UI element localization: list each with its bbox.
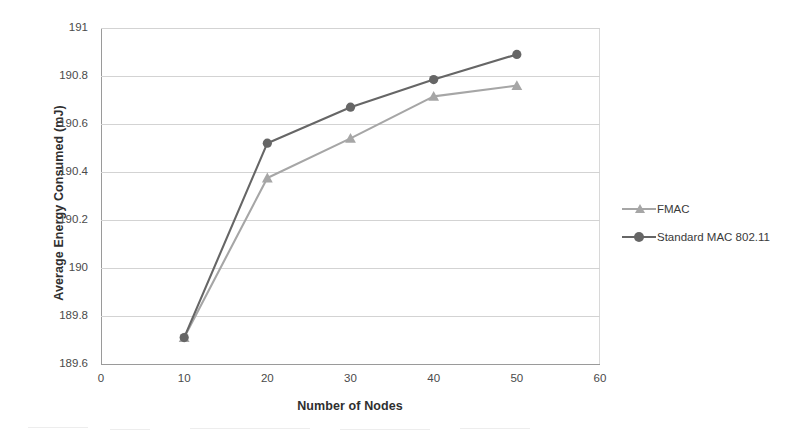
legend-label: Standard MAC 802.11 — [657, 231, 770, 243]
series-layer — [101, 28, 600, 364]
x-tick-label: 20 — [237, 372, 297, 384]
data-point-marker — [346, 103, 355, 112]
data-point-marker — [512, 50, 521, 59]
data-point-marker — [180, 333, 189, 342]
x-axis-line — [101, 364, 600, 365]
series-line — [184, 86, 517, 338]
x-axis-title: Number of Nodes — [100, 399, 600, 413]
y-tick-label: 190.8 — [8, 70, 88, 82]
plot-area — [101, 28, 600, 364]
legend-item[interactable]: Standard MAC 802.11 — [622, 223, 790, 251]
legend-swatch — [622, 230, 656, 244]
legend-item[interactable]: FMAC — [622, 195, 790, 223]
x-tick-label: 10 — [154, 372, 214, 384]
scan-artifact — [460, 428, 530, 429]
x-tick-label: 0 — [71, 372, 131, 384]
y-tick-label: 189.8 — [8, 310, 88, 322]
scan-artifact — [340, 429, 430, 430]
scan-artifact — [28, 427, 88, 428]
data-point-marker — [345, 133, 356, 143]
legend-triangle-marker-icon — [635, 204, 645, 213]
legend-circle-marker-icon — [634, 232, 644, 242]
legend-swatch — [622, 202, 656, 216]
scan-artifact — [110, 429, 150, 430]
chart-legend: FMACStandard MAC 802.11 — [622, 195, 790, 251]
series-standard-mac-802-11 — [180, 50, 522, 342]
data-point-marker — [262, 173, 273, 183]
energy-consumption-line-chart: Average Energy Consumed (mJ) Number of N… — [0, 0, 794, 438]
y-tick-label: 190.2 — [8, 214, 88, 226]
y-tick-label: 190.6 — [8, 118, 88, 130]
y-tick-label: 191 — [8, 22, 88, 34]
series-fmac — [179, 80, 522, 342]
x-tick-label: 60 — [570, 372, 630, 384]
y-tick-label: 189.6 — [8, 358, 88, 370]
series-line — [184, 54, 517, 337]
data-point-marker — [263, 139, 272, 148]
y-axis-title: Average Energy Consumed (mJ) — [52, 58, 66, 348]
y-tick-label: 190 — [8, 262, 88, 274]
legend-label: FMAC — [657, 203, 690, 215]
data-point-marker — [429, 75, 438, 84]
x-tick-label: 40 — [404, 372, 464, 384]
x-tick-label: 50 — [487, 372, 547, 384]
scan-artifact — [190, 428, 310, 429]
x-tick-label: 30 — [321, 372, 381, 384]
y-tick-label: 190.4 — [8, 166, 88, 178]
